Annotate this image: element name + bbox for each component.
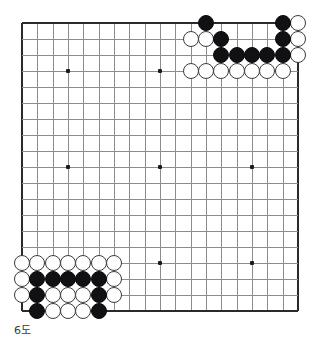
- star-point: [158, 261, 162, 265]
- white-stone[interactable]: [106, 287, 122, 303]
- grid-line-horizontal: [22, 119, 298, 120]
- white-stone[interactable]: [290, 15, 306, 31]
- white-stone[interactable]: [106, 255, 122, 271]
- grid-line-horizontal: [22, 231, 298, 232]
- white-stone[interactable]: [198, 63, 214, 79]
- black-stone[interactable]: [60, 271, 76, 287]
- go-board-grid[interactable]: [22, 23, 298, 311]
- black-stone[interactable]: [91, 271, 107, 287]
- black-stone[interactable]: [259, 47, 275, 63]
- white-stone[interactable]: [244, 63, 260, 79]
- grid-line-horizontal: [22, 215, 298, 216]
- white-stone[interactable]: [290, 47, 306, 63]
- white-stone[interactable]: [275, 63, 291, 79]
- grid-line-horizontal: [22, 183, 298, 184]
- white-stone[interactable]: [14, 271, 30, 287]
- white-stone[interactable]: [60, 303, 76, 319]
- star-point: [66, 165, 70, 169]
- white-stone[interactable]: [45, 303, 61, 319]
- white-stone[interactable]: [60, 287, 76, 303]
- white-stone[interactable]: [229, 63, 245, 79]
- black-stone[interactable]: [213, 47, 229, 63]
- go-diagram-page: 6도: [0, 0, 316, 344]
- go-board-container[interactable]: [0, 0, 316, 320]
- grid-line-horizontal: [22, 199, 298, 200]
- black-stone[interactable]: [275, 47, 291, 63]
- figure-caption: 6도: [14, 321, 32, 337]
- star-point: [158, 69, 162, 73]
- star-point: [158, 165, 162, 169]
- grid-line-horizontal: [22, 103, 298, 104]
- white-stone[interactable]: [45, 255, 61, 271]
- black-stone[interactable]: [45, 271, 61, 287]
- grid-line-horizontal: [22, 22, 298, 24]
- white-stone[interactable]: [290, 31, 306, 47]
- grid-line-horizontal: [22, 247, 298, 248]
- white-stone[interactable]: [198, 31, 214, 47]
- white-stone[interactable]: [259, 63, 275, 79]
- black-stone[interactable]: [275, 31, 291, 47]
- black-stone[interactable]: [244, 47, 260, 63]
- white-stone[interactable]: [183, 63, 199, 79]
- grid-line-horizontal: [22, 39, 298, 40]
- black-stone[interactable]: [91, 303, 107, 319]
- black-stone[interactable]: [29, 287, 45, 303]
- black-stone[interactable]: [75, 271, 91, 287]
- black-stone[interactable]: [91, 287, 107, 303]
- white-stone[interactable]: [213, 63, 229, 79]
- white-stone[interactable]: [45, 287, 61, 303]
- star-point: [250, 165, 254, 169]
- white-stone[interactable]: [91, 255, 107, 271]
- star-point: [66, 69, 70, 73]
- grid-line-horizontal: [22, 135, 298, 136]
- black-stone[interactable]: [213, 31, 229, 47]
- star-point: [250, 261, 254, 265]
- white-stone[interactable]: [75, 303, 91, 319]
- black-stone[interactable]: [29, 271, 45, 287]
- black-stone[interactable]: [275, 15, 291, 31]
- white-stone[interactable]: [14, 287, 30, 303]
- black-stone[interactable]: [29, 303, 45, 319]
- white-stone[interactable]: [60, 255, 76, 271]
- black-stone[interactable]: [229, 47, 245, 63]
- white-stone[interactable]: [183, 31, 199, 47]
- black-stone[interactable]: [198, 15, 214, 31]
- white-stone[interactable]: [29, 255, 45, 271]
- white-stone[interactable]: [75, 287, 91, 303]
- white-stone[interactable]: [75, 255, 91, 271]
- grid-line-horizontal: [22, 87, 298, 88]
- white-stone[interactable]: [106, 271, 122, 287]
- grid-line-horizontal: [22, 151, 298, 152]
- white-stone[interactable]: [14, 255, 30, 271]
